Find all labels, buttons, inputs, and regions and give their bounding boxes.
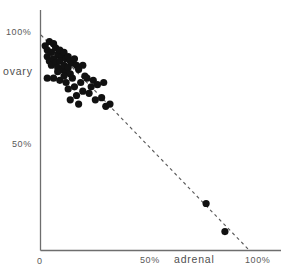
- data-point: [44, 75, 51, 82]
- data-point: [65, 85, 72, 92]
- data-point: [94, 81, 101, 88]
- x-axis-title: adrenal: [174, 253, 215, 265]
- data-point: [50, 75, 57, 82]
- data-point: [88, 83, 95, 90]
- data-point: [79, 88, 86, 95]
- data-point: [60, 72, 67, 79]
- reference-line-group: [41, 35, 250, 251]
- data-point: [65, 64, 72, 71]
- data-point: [221, 228, 228, 235]
- axes-group: [41, 10, 282, 251]
- y-axis-tick-100: 100%: [6, 27, 31, 37]
- x-axis-tick-0: 0: [37, 256, 43, 266]
- data-point: [54, 68, 61, 75]
- data-point: [100, 79, 107, 86]
- plot-canvas: [0, 0, 285, 277]
- scatter-plot-figure: 100% 50% ovary 0 50% adrenal 100%: [0, 0, 285, 277]
- y-axis-title: ovary: [3, 65, 33, 77]
- data-point: [75, 101, 82, 108]
- data-points-group: [42, 38, 229, 235]
- data-point: [203, 200, 210, 207]
- reference-line: [41, 35, 250, 251]
- data-point: [73, 92, 80, 99]
- data-point: [92, 96, 99, 103]
- data-point: [77, 79, 84, 86]
- data-point: [67, 96, 74, 103]
- x-axis-tick-50: 50%: [140, 255, 160, 265]
- data-point: [98, 94, 105, 101]
- data-point: [81, 72, 88, 79]
- data-point: [69, 75, 76, 82]
- data-point: [79, 62, 86, 69]
- data-point: [106, 101, 113, 108]
- y-axis-tick-50: 50%: [12, 139, 32, 149]
- x-axis-tick-100: 100%: [245, 255, 270, 265]
- data-point: [71, 83, 78, 90]
- data-point: [85, 90, 92, 97]
- data-point: [62, 79, 69, 86]
- data-point: [71, 55, 78, 62]
